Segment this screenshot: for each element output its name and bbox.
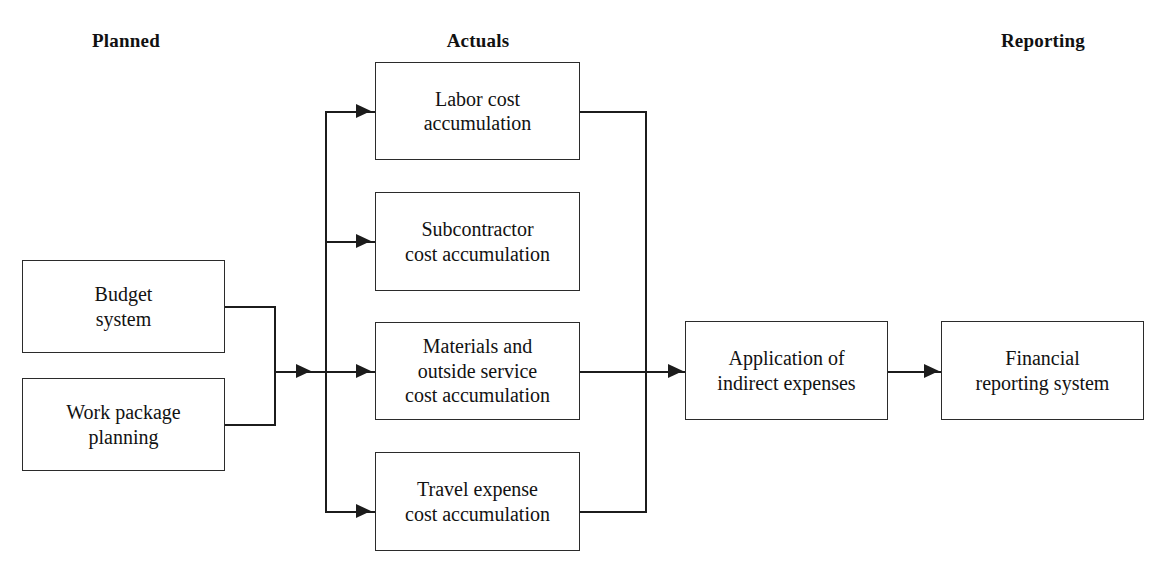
column-heading-actuals: Actuals <box>447 30 510 52</box>
column-heading-planned: Planned <box>92 30 160 52</box>
column-heading-reporting: Reporting <box>1001 30 1085 52</box>
node-travel-cost-accumulation-label: Travel expense cost accumulation <box>399 477 556 526</box>
arrowhead-to-indirect <box>668 364 683 378</box>
node-subcontractor-cost-accumulation-label: Subcontractor cost accumulation <box>399 217 556 266</box>
arrowhead-to-labor <box>356 104 371 118</box>
node-labor-cost-accumulation[interactable]: Labor cost accumulation <box>375 62 580 160</box>
node-subcontractor-cost-accumulation[interactable]: Subcontractor cost accumulation <box>375 192 580 291</box>
node-budget-system[interactable]: Budget system <box>22 260 225 353</box>
connector-travel-to-collection <box>580 511 647 513</box>
arrowhead-planned-to-distribution <box>296 364 311 378</box>
connector-labor-to-collection <box>580 111 647 113</box>
flowchart-canvas: Planned Actuals Reporting Budget system … <box>0 0 1161 571</box>
node-application-of-indirect-expenses[interactable]: Application of indirect expenses <box>685 321 888 420</box>
connector-budget-to-bracket <box>225 306 275 308</box>
connector-distribution-bar <box>325 111 327 511</box>
arrowhead-to-materials <box>356 364 371 378</box>
node-financial-reporting-system-label: Financial reporting system <box>970 346 1116 395</box>
node-work-package-planning-label: Work package planning <box>60 400 186 449</box>
connector-workpackage-to-bracket <box>225 424 275 426</box>
node-application-of-indirect-expenses-label: Application of indirect expenses <box>711 346 861 395</box>
node-materials-cost-accumulation-label: Materials and outside service cost accum… <box>399 334 556 407</box>
arrowhead-to-travel <box>356 504 371 518</box>
node-budget-system-label: Budget system <box>89 282 159 331</box>
arrowhead-to-financial <box>924 364 939 378</box>
connector-materials-to-collection <box>580 371 647 373</box>
connector-planned-merge-bar <box>274 306 276 426</box>
connector-collection-bar <box>645 111 647 511</box>
node-travel-cost-accumulation[interactable]: Travel expense cost accumulation <box>375 452 580 551</box>
node-labor-cost-accumulation-label: Labor cost accumulation <box>418 87 538 136</box>
arrowhead-to-subcontractor <box>356 234 371 248</box>
node-financial-reporting-system[interactable]: Financial reporting system <box>941 321 1144 420</box>
node-materials-cost-accumulation[interactable]: Materials and outside service cost accum… <box>375 322 580 420</box>
node-work-package-planning[interactable]: Work package planning <box>22 378 225 471</box>
